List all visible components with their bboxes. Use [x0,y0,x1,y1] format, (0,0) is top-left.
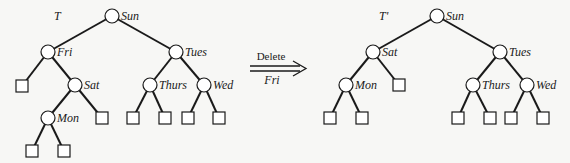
operation-key: Fri [263,73,279,87]
node-fri [41,45,55,59]
arrow-head-icon [293,61,306,76]
left-tree-title: T [54,9,62,23]
label-sun: Sun [121,9,139,23]
leaf-node [356,112,368,124]
node-wed [520,78,534,92]
node-mon [41,111,55,125]
tree-deletion-diagram: T Sun Fri Tues Sat Thurs Wed Mon [0,0,570,163]
left-tree: T Sun Fri Tues Sat Thurs Wed Mon [16,9,234,157]
leaf-node [58,145,70,157]
node-wed [197,78,211,92]
node-tues [493,45,507,59]
node-sun [105,9,119,23]
node-thurs [466,78,480,92]
delete-arrow: Delete Fri [250,50,306,87]
label-tues: Tues [509,45,531,59]
node-sat [366,45,380,59]
label-mon: Mon [56,111,79,125]
leaf-node [159,112,171,124]
label-wed: Wed [213,78,234,92]
label-sat: Sat [382,45,398,59]
label-mon: Mon [354,78,377,92]
leaf-node [505,112,517,124]
label-sun: Sun [446,9,464,23]
label-thurs: Thurs [159,78,187,92]
operation-label: Delete [257,50,286,62]
node-thurs [143,78,157,92]
leaf-node [26,145,38,157]
leaf-node [96,112,108,124]
leaf-node [393,79,405,91]
leaf-node [324,112,336,124]
label-sat: Sat [84,78,100,92]
label-fri: Fri [56,45,72,59]
node-sun [430,9,444,23]
leaf-node [484,112,496,124]
label-thurs: Thurs [482,78,510,92]
leaf-node [182,112,194,124]
leaf-node [16,80,28,92]
right-tree-title: T' [379,9,389,23]
node-mon [339,78,353,92]
label-wed: Wed [536,78,557,92]
right-tree: T' Sun Sat Tues Mon Thurs Wed [324,9,557,124]
label-tues: Tues [185,45,207,59]
leaf-node [213,112,225,124]
leaf-node [127,112,139,124]
leaf-node [452,112,464,124]
leaf-node [537,112,549,124]
node-sat [68,78,82,92]
node-tues [169,45,183,59]
